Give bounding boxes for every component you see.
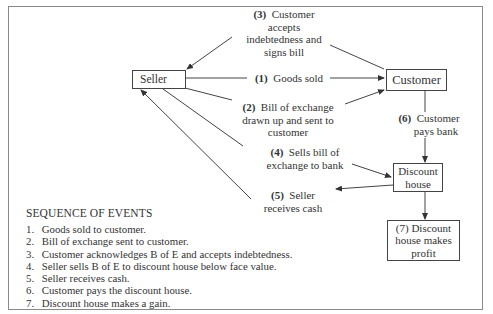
edge-label-3-line1: Customer xyxy=(272,8,315,20)
edge-2-left xyxy=(185,88,232,100)
sequence-item-number: 3. xyxy=(26,248,39,260)
sequence-item-text: Goods sold to customer. xyxy=(42,223,146,235)
edge-label-1-text: Goods sold xyxy=(273,72,323,84)
sequence-item-number: 4. xyxy=(26,260,39,272)
node-discount-house-line2: house xyxy=(405,178,431,191)
edge-4-right xyxy=(352,164,391,177)
edge-label-5-line1: Seller xyxy=(289,189,315,201)
sequence-item: 3. Customer acknowledges B of E and acce… xyxy=(26,248,292,260)
edge-label-2-line1: Bill of exchange xyxy=(261,101,334,113)
node-seller-label: Seller xyxy=(140,73,167,86)
sequence-item-text: Seller sells B of E to discount house be… xyxy=(42,260,277,272)
sequence-item-number: 6. xyxy=(26,284,39,296)
node-discount-house-profit: (7) Discount house makes profit xyxy=(387,220,460,261)
edge-label-3: (3) Customer accepts indebtedness and si… xyxy=(236,8,332,58)
edge-label-3-line4: signs bill xyxy=(236,46,332,59)
sequence-item-number: 7. xyxy=(26,297,39,309)
sequence-item-text: Seller receives cash. xyxy=(42,272,130,284)
sequence-item-number: 2. xyxy=(26,235,39,247)
edge-3-right xyxy=(330,45,384,69)
sequence-heading: SEQUENCE OF EVENTS xyxy=(26,207,292,219)
sequence-item-number: 1. xyxy=(26,223,39,235)
node-customer-label: Customer xyxy=(392,74,441,87)
edge-label-2-line3: customer xyxy=(236,126,340,139)
edge-5-left xyxy=(141,90,251,199)
edge-label-1: (1) Goods sold xyxy=(250,72,328,85)
sequence-list: 1. Goods sold to customer. 2. Bill of ex… xyxy=(26,223,292,309)
edge-label-3-line3: indebtedness and xyxy=(236,33,332,46)
edge-label-3-num: (3) xyxy=(253,8,266,20)
edge-label-2-line2: drawn up and sent to xyxy=(236,114,340,127)
sequence-item: 7. Discount house makes a gain. xyxy=(26,297,292,309)
node-profit-line1: (7) Discount xyxy=(396,222,451,235)
node-discount-house: Discount house xyxy=(393,163,443,192)
sequence-item: 6. Customer pays the discount house. xyxy=(26,284,292,296)
edge-label-4-line1: Sells bill of xyxy=(289,146,340,158)
edge-label-2-num: (2) xyxy=(242,101,255,113)
edge-label-2: (2) Bill of exchange drawn up and sent t… xyxy=(236,101,340,139)
node-discount-house-line1: Discount xyxy=(398,165,438,178)
node-seller: Seller xyxy=(132,70,186,89)
edge-label-1-num: (1) xyxy=(255,72,268,84)
sequence-of-events: SEQUENCE OF EVENTS 1. Goods sold to cust… xyxy=(26,207,292,309)
sequence-item: 5. Seller receives cash. xyxy=(26,272,292,284)
edge-label-6: (6) Customer pays bank xyxy=(384,112,474,137)
node-customer: Customer xyxy=(386,69,447,91)
edge-label-6-line1: Customer xyxy=(417,112,460,124)
sequence-item-text: Customer acknowledges B of E and accepts… xyxy=(42,248,293,260)
edge-label-4-num: (4) xyxy=(270,146,283,158)
edge-label-6-line2: pays bank xyxy=(384,125,474,138)
edge-2-right xyxy=(345,90,384,104)
edge-label-4: (4) Sells bill of exchange to bank xyxy=(256,146,354,171)
sequence-item-text: Customer pays the discount house. xyxy=(42,284,192,296)
edge-label-5-num: (5) xyxy=(271,189,284,201)
sequence-item-text: Bill of exchange sent to customer. xyxy=(42,235,189,247)
edge-5-right xyxy=(336,185,393,189)
edge-label-4-line2: exchange to bank xyxy=(256,159,354,172)
edge-3-left xyxy=(187,37,232,69)
sequence-item-text: Discount house makes a gain. xyxy=(42,297,171,309)
sequence-item-number: 5. xyxy=(26,272,39,284)
edge-label-6-num: (6) xyxy=(398,112,411,124)
sequence-item: 1. Goods sold to customer. xyxy=(26,223,292,235)
sequence-item: 2. Bill of exchange sent to customer. xyxy=(26,235,292,247)
node-profit-line3: profit xyxy=(411,247,435,260)
edge-label-3-line2: accepts xyxy=(236,21,332,34)
edge-4-left xyxy=(163,89,243,146)
sequence-item: 4. Seller sells B of E to discount house… xyxy=(26,260,292,272)
node-profit-line2: house makes xyxy=(395,234,452,247)
